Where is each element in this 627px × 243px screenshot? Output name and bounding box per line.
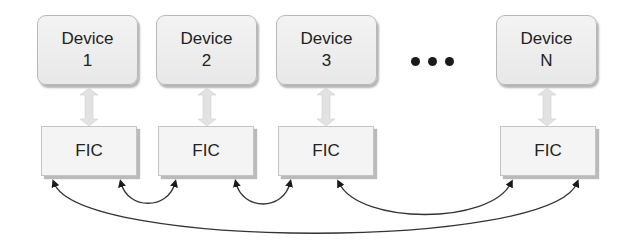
connection-arcs xyxy=(0,0,627,243)
arc-fic3-ficn xyxy=(339,183,511,215)
fic-ring-diagram: Device 1 Device 2 Device 3 Device N FIC … xyxy=(0,0,627,243)
arc-fic1-ficn xyxy=(54,183,577,233)
arc-fic2-fic3 xyxy=(236,183,290,204)
arc-fic1-fic2 xyxy=(121,183,175,203)
